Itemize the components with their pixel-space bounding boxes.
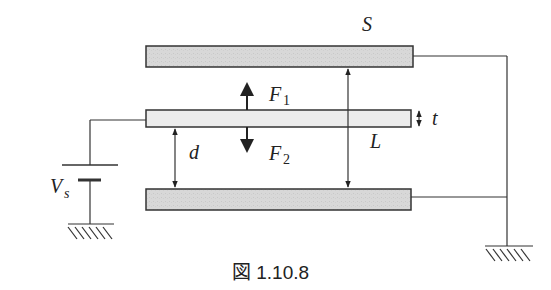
label-t: t [432, 107, 438, 129]
label-l: L [369, 130, 381, 152]
label-d: d [189, 141, 200, 163]
label-f2-sub: 2 [283, 152, 290, 167]
label-s: S [362, 13, 372, 35]
right-wire [411, 56, 507, 246]
ground-left-icon [68, 224, 114, 239]
battery-icon [62, 165, 118, 180]
label-f1-sub: 1 [283, 93, 290, 108]
force-f1-arrow-icon [240, 82, 254, 110]
left-wire [90, 120, 146, 224]
label-vs: V [50, 175, 65, 197]
middle-plate [146, 110, 411, 127]
ground-right-icon [485, 246, 533, 261]
force-f2-arrow-icon [240, 127, 254, 153]
label-f2: F [268, 142, 282, 164]
figure-caption: 図 1.10.8 [232, 262, 309, 283]
diagram-canvas: S V s d [0, 0, 551, 290]
label-f1: F [268, 83, 282, 105]
bottom-plate [146, 189, 411, 210]
label-vs-sub: s [64, 186, 70, 201]
top-plate [146, 46, 413, 67]
